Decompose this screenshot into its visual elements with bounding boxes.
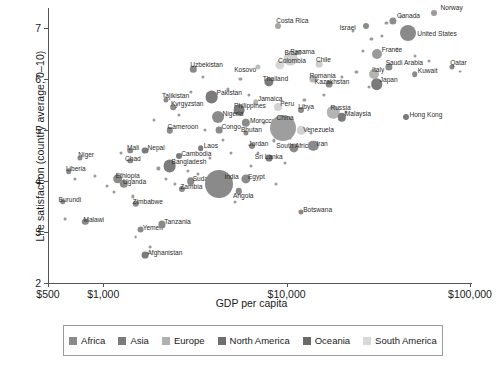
data-point-label: Nigeria: [223, 110, 244, 117]
x-tick-label: $100,000: [448, 288, 492, 300]
data-point: [157, 167, 160, 170]
data-point-label: Mali: [127, 144, 139, 151]
data-point-label: Egypt: [248, 173, 265, 180]
data-point: [153, 119, 156, 122]
data-point-label: Malawi: [83, 216, 104, 223]
data-point-label: Botswana: [303, 206, 332, 213]
x-tick-label: $500: [36, 288, 59, 300]
y-tick-mark: [44, 232, 48, 233]
data-point[interactable]: [389, 17, 396, 24]
y-tick-mark: [44, 79, 48, 80]
legend-swatch-icon: [162, 337, 170, 345]
data-point: [385, 22, 388, 25]
data-point-label: Iran: [316, 140, 327, 147]
legend-item[interactable]: South America: [363, 335, 437, 346]
data-point-label: Bhutan: [241, 126, 262, 133]
data-point: [322, 93, 325, 96]
data-point[interactable]: [431, 10, 437, 16]
data-point: [208, 157, 211, 160]
legend-label: South America: [375, 335, 437, 346]
data-point-label: Chad: [125, 155, 141, 162]
legend-label: Asia: [130, 335, 148, 346]
data-point-label: Pakistan: [217, 89, 242, 96]
data-point: [250, 164, 253, 167]
data-point: [178, 113, 181, 116]
data-point-label: Niger: [78, 151, 94, 158]
data-point[interactable]: [412, 71, 418, 77]
data-point[interactable]: [372, 49, 382, 59]
data-point-label: Tanzania: [164, 218, 190, 225]
data-point: [361, 50, 364, 53]
data-point-label: Norway: [440, 4, 462, 11]
data-point: [173, 182, 176, 185]
data-point-label: Burundi: [59, 196, 82, 203]
data-point: [230, 152, 233, 155]
data-point-label: Israel: [340, 24, 356, 31]
data-point-label: Brazil: [284, 49, 301, 56]
data-point: [201, 75, 204, 78]
data-point: [283, 162, 286, 165]
y-tick-mark: [44, 181, 48, 182]
data-point: [93, 174, 96, 177]
data-point[interactable]: [400, 25, 416, 41]
data-point: [119, 152, 122, 155]
data-point[interactable]: [256, 64, 261, 69]
legend-swatch-icon: [363, 337, 371, 345]
legend-item[interactable]: Africa: [69, 335, 105, 346]
legend-item[interactable]: Asia: [118, 335, 148, 346]
data-point-label: Uganda: [123, 178, 146, 185]
legend-label: North America: [230, 335, 290, 346]
x-tick-mark: [287, 283, 288, 287]
data-point: [272, 139, 275, 142]
x-axis-label: GDP per capita: [0, 297, 503, 309]
data-point-label: Sri Lanka: [255, 153, 283, 160]
data-point-label: Venezuela: [303, 126, 334, 133]
x-tick-mark: [48, 283, 49, 287]
x-tick-label: $10,000: [268, 288, 306, 300]
plot-area: 234567 $500$1,000$10,000$100,000 NorwayC…: [48, 8, 470, 283]
legend-item[interactable]: Oceania: [303, 335, 350, 346]
data-point-label: Philippines: [234, 102, 266, 109]
legend-swatch-icon: [303, 337, 311, 345]
data-point-label: South Africa: [276, 142, 312, 149]
data-point-label: Peru: [280, 100, 294, 107]
x-tick-label: $1,000: [87, 288, 119, 300]
legend-swatch-icon: [69, 337, 77, 345]
data-point-label: Kazakhstan: [315, 78, 349, 85]
data-point-label: Colombia: [278, 57, 306, 64]
data-point-label: Costa Rica: [276, 17, 308, 24]
data-point-label: Thailand: [263, 75, 288, 82]
y-tick-mark: [44, 130, 48, 131]
chart-root: Life satisfaction (country average; 0–10…: [0, 0, 503, 369]
legend-item[interactable]: Europe: [162, 335, 205, 346]
data-point: [134, 236, 137, 239]
legend-swatch-icon: [118, 337, 126, 345]
data-point: [165, 177, 168, 180]
data-point-label: Canada: [397, 12, 420, 19]
data-point-label: Italy: [372, 66, 384, 73]
data-point-label: China: [277, 114, 294, 121]
data-point: [73, 177, 76, 180]
data-point-label: Kuwait: [418, 67, 438, 74]
data-point[interactable]: [363, 23, 369, 29]
legend-swatch-icon: [218, 337, 226, 345]
x-axis-line: [48, 283, 472, 284]
y-tick-label: 5: [25, 125, 41, 135]
data-point-label: Hong Kong: [409, 111, 442, 118]
data-point-label: Zimbabwe: [133, 198, 163, 205]
y-tick-label: 4: [25, 176, 41, 186]
data-point-label: Tajikistan: [162, 92, 189, 99]
y-tick-label: 3: [25, 227, 41, 237]
data-point-label: Uzbekistan: [190, 61, 223, 68]
data-point-label: Laos: [204, 142, 218, 149]
data-point: [186, 169, 189, 172]
data-point-label: Kyrgyzstan: [171, 100, 204, 107]
data-point: [303, 98, 306, 101]
data-point-label: United States: [417, 30, 457, 37]
data-point-label: Saudi Arabia: [386, 59, 423, 66]
y-axis-line: [48, 8, 49, 283]
legend-item[interactable]: North America: [218, 335, 290, 346]
data-point-label: Kosovo: [234, 66, 256, 73]
y-tick-label: 7: [25, 23, 41, 33]
legend-label: Oceania: [315, 335, 350, 346]
